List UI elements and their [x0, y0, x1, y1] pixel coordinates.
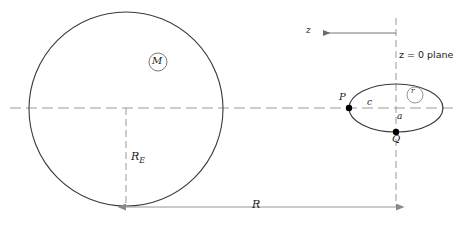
inner-radius-circle [407, 87, 423, 103]
body-radius-label-subscript: E [139, 156, 145, 165]
point-p-label: P [339, 92, 346, 102]
z-zero-plane-label: z = 0 plane [399, 50, 453, 60]
body-radius-label: RE [131, 151, 145, 165]
orbit-distance-label: R [252, 199, 260, 210]
semi-axis-c-label: c [367, 98, 372, 107]
central-mass-label: M [152, 56, 162, 66]
semi-axis-a-label: a [397, 112, 402, 121]
z-axis-label: z [306, 26, 311, 35]
figure-canvas: M RE R z z = 0 plane P Q c a r [0, 0, 458, 239]
point-q-label: Q [392, 134, 400, 144]
point-p-marker [346, 105, 352, 111]
diagram-svg [0, 0, 458, 239]
inner-radius-label: r [411, 87, 415, 95]
